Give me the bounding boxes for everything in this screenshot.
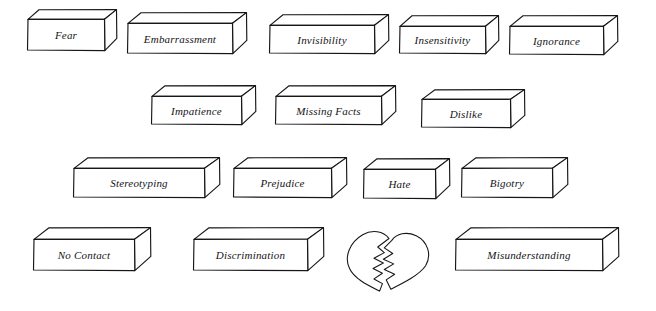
- brick-label: Dislike: [422, 100, 510, 127]
- brick-label: Prejudice: [234, 169, 331, 197]
- brick-top-face: [510, 16, 618, 27]
- brick-top-face: [462, 158, 568, 169]
- brick-label: Impatience: [152, 97, 241, 124]
- heart-left-half: [347, 231, 389, 291]
- brick-label: Fear: [28, 20, 104, 50]
- brick-top-face: [194, 228, 324, 240]
- brick-top-face: [270, 15, 389, 26]
- brick-label: Misunderstanding: [456, 240, 602, 270]
- brick-top-face: [28, 10, 117, 20]
- brick-top-face: [456, 228, 619, 240]
- brick-label: Insensitivity: [400, 27, 485, 53]
- brick-top-face: [276, 86, 396, 97]
- brick-label: Missing Facts: [276, 97, 381, 124]
- broken-heart-icon: [342, 231, 436, 293]
- heart-right-half: [383, 233, 428, 289]
- brick-label: Invisibility: [270, 26, 374, 53]
- brick-label: Discrimination: [194, 240, 307, 270]
- brick-top-face: [422, 90, 525, 100]
- brick-wall-diagram: FearEmbarrassmentInvisibilityInsensitivi…: [0, 0, 656, 311]
- brick-label: Embarrassment: [128, 24, 232, 53]
- brick-top-face: [234, 158, 347, 169]
- brick-label: Stereotyping: [74, 169, 204, 197]
- brick-top-face: [128, 13, 247, 24]
- brick-top-face: [74, 158, 220, 169]
- brick-label: Hate: [364, 170, 435, 198]
- brick-top-face: [152, 86, 256, 97]
- brick-top-face: [400, 16, 499, 27]
- brick-label: No Contact: [34, 240, 134, 270]
- brick-label: Ignorance: [510, 27, 603, 54]
- brick-top-face: [34, 228, 151, 240]
- brick-label: Bigotry: [462, 169, 552, 197]
